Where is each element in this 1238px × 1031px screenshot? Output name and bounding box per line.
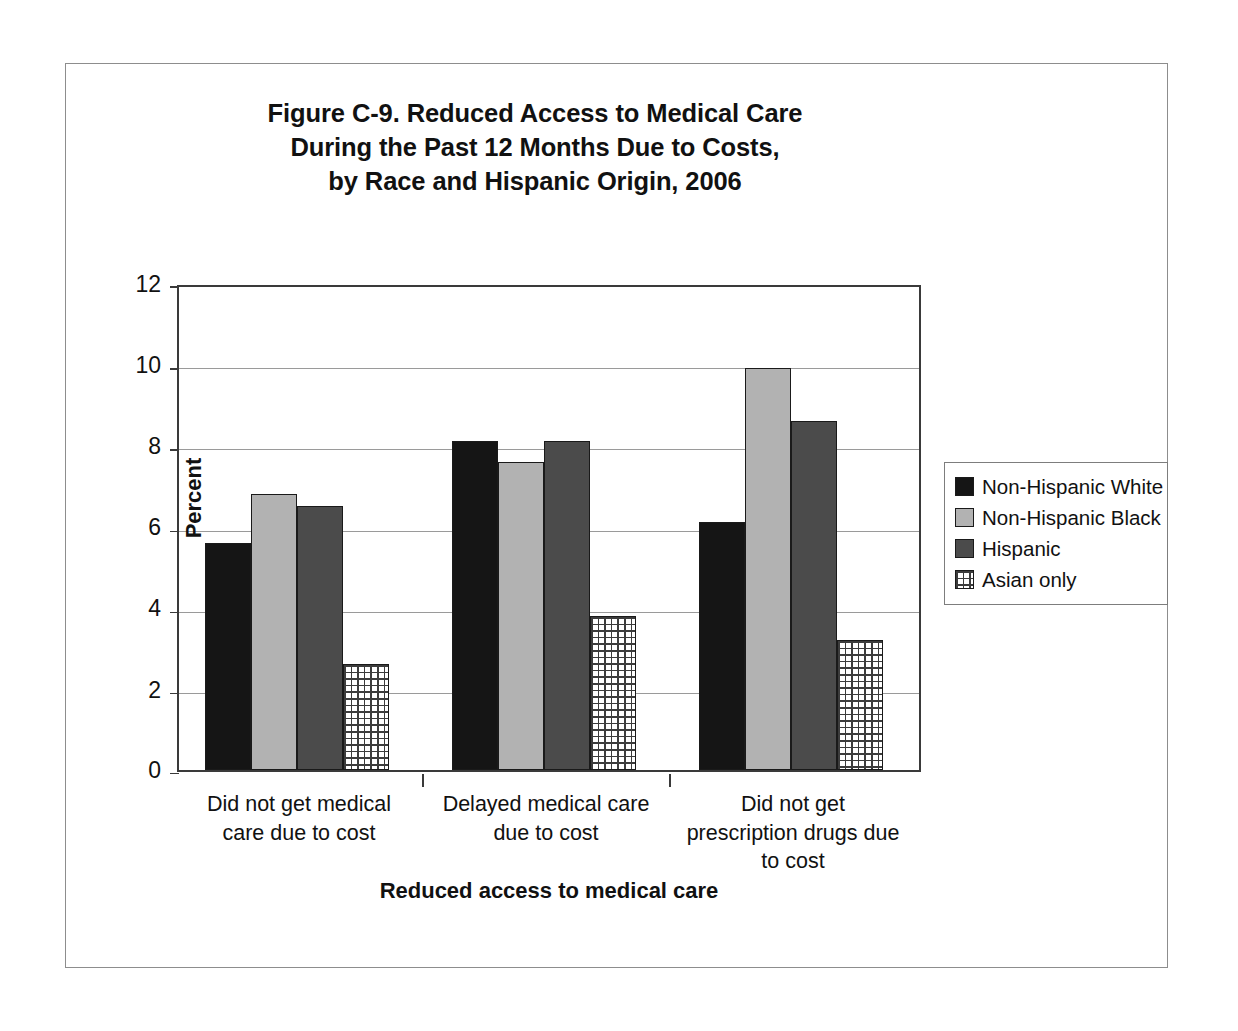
legend-item-non-hispanic-black[interactable]: Non-Hispanic Black [955, 502, 1161, 533]
chart-legend: Non-Hispanic White Non-Hispanic Black Hi… [944, 462, 1168, 605]
y-tick-mark-12 [170, 286, 179, 288]
x-tick-label-1: Delayed medical care due to cost [422, 790, 670, 847]
bar-g0-s2[interactable] [297, 506, 343, 770]
bar-g0-s3[interactable] [343, 664, 389, 770]
x-tick-label-0: Did not get medical care due to cost [175, 790, 423, 847]
x-tick-label-2-line-1: Did not get [669, 790, 917, 819]
category-separator-2 [669, 774, 671, 787]
x-tick-label-1-line-2: due to cost [422, 819, 670, 848]
y-tick-label-10: 10 [107, 352, 161, 379]
category-separator-1 [422, 774, 424, 787]
y-tick-mark-4 [170, 612, 179, 614]
legend-label-non-hispanic-white: Non-Hispanic White [982, 475, 1163, 499]
bar-g2-s3[interactable] [837, 640, 883, 770]
chart-title-line-1: Figure C-9. Reduced Access to Medical Ca… [120, 96, 950, 130]
x-tick-label-2-line-2: prescription drugs due [669, 819, 917, 848]
bar-g0-s0[interactable] [205, 543, 251, 770]
bar-g1-s3[interactable] [590, 616, 636, 770]
x-tick-label-0-line-1: Did not get medical [175, 790, 423, 819]
legend-label-asian-only: Asian only [982, 568, 1077, 592]
legend-swatch-icon-non-hispanic-black [955, 508, 974, 527]
x-tick-label-0-line-2: care due to cost [175, 819, 423, 848]
legend-item-non-hispanic-white[interactable]: Non-Hispanic White [955, 471, 1161, 502]
legend-item-hispanic[interactable]: Hispanic [955, 533, 1161, 564]
legend-label-non-hispanic-black: Non-Hispanic Black [982, 506, 1161, 530]
legend-swatch-icon-non-hispanic-white [955, 477, 974, 496]
bar-g2-s1[interactable] [745, 368, 791, 770]
legend-swatch-icon-hispanic [955, 539, 974, 558]
y-tick-label-0: 0 [107, 757, 161, 784]
chart-title-line-2: During the Past 12 Months Due to Costs, [120, 130, 950, 164]
y-tick-mark-2 [170, 693, 179, 695]
bar-g0-s1[interactable] [251, 494, 297, 770]
chart-page: Figure C-9. Reduced Access to Medical Ca… [0, 0, 1238, 1031]
plot-area: Percent 12 10 8 6 4 2 0 [177, 285, 921, 772]
chart-title-line-3: by Race and Hispanic Origin, 2006 [120, 164, 950, 198]
legend-swatch-icon-asian-only [955, 570, 974, 589]
legend-label-hispanic: Hispanic [982, 537, 1061, 561]
y-axis-title: Percent [181, 428, 207, 568]
y-tick-label-12: 12 [107, 271, 161, 298]
x-axis-title: Reduced access to medical care [177, 878, 921, 904]
x-tick-label-2: Did not get prescription drugs due to co… [669, 790, 917, 876]
bar-g1-s0[interactable] [452, 441, 498, 770]
bar-g2-s2[interactable] [791, 421, 837, 770]
bar-g1-s1[interactable] [498, 462, 544, 770]
legend-item-asian-only[interactable]: Asian only [955, 564, 1161, 595]
y-tick-label-8: 8 [107, 433, 161, 460]
y-tick-label-2: 2 [107, 677, 161, 704]
y-tick-label-6: 6 [107, 514, 161, 541]
y-tick-label-4: 4 [107, 595, 161, 622]
bar-g1-s2[interactable] [544, 441, 590, 770]
chart-title: Figure C-9. Reduced Access to Medical Ca… [120, 96, 950, 198]
y-tick-mark-0 [170, 773, 179, 775]
gridline-10 [179, 368, 919, 369]
x-tick-label-1-line-1: Delayed medical care [422, 790, 670, 819]
y-tick-mark-6 [170, 531, 179, 533]
x-tick-label-2-line-3: to cost [669, 847, 917, 876]
y-tick-mark-8 [170, 449, 179, 451]
bar-g2-s0[interactable] [699, 522, 745, 770]
y-tick-mark-10 [170, 368, 179, 370]
